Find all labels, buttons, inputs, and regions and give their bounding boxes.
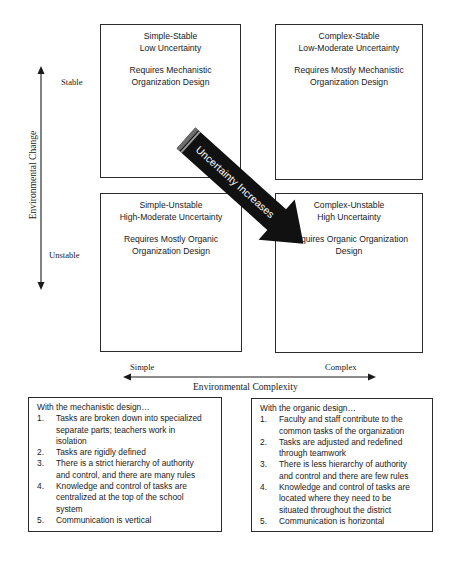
- list-item: 1. Faculty and staff contribute to the c…: [260, 414, 426, 437]
- list-number: 4.: [37, 481, 44, 492]
- list-text: Knowledge and control of tasks are: [279, 482, 410, 492]
- list-item: 5. Communication is vertical: [37, 515, 215, 526]
- list-number: 5.: [37, 515, 44, 526]
- mechanistic-design-lead: With the mechanistic design…: [37, 402, 215, 413]
- mechanistic-design-box: With the mechanistic design… 1. Tasks ar…: [28, 397, 222, 532]
- list-text: Faculty and staff contribute to the: [279, 414, 403, 424]
- list-item: 1. Tasks are broken down into specialize…: [37, 413, 215, 447]
- list-item: 3. There is less hierarchy of authority …: [260, 459, 426, 482]
- list-text: and control, and there are many rules: [56, 470, 195, 480]
- list-text: system: [56, 504, 83, 514]
- list-text: Tasks are rigidly defined: [56, 447, 146, 457]
- list-number: 1.: [37, 413, 44, 424]
- uncertainty-arrow-label: Uncertainty Increases: [194, 143, 277, 220]
- list-number: 4.: [260, 482, 267, 493]
- list-text: There is less hierarchy of authority: [279, 459, 407, 469]
- mechanistic-design-list: 1. Tasks are broken down into specialize…: [37, 413, 215, 526]
- list-text: common tasks of the organization: [279, 426, 404, 436]
- list-number: 2.: [37, 447, 44, 458]
- list-text: Tasks are broken down into specialized: [56, 413, 202, 423]
- list-text: Communication is horizontal: [279, 516, 384, 526]
- list-number: 1.: [260, 414, 267, 425]
- list-number: 3.: [260, 459, 267, 470]
- list-text: There is a strict hierarchy of authority: [56, 458, 194, 468]
- organic-design-lead: With the organic design…: [260, 403, 426, 414]
- uncertainty-arrow-icon: Uncertainty Increases: [168, 118, 322, 264]
- list-item: 4. Knowledge and control of tasks are lo…: [260, 482, 426, 516]
- list-text: Communication is vertical: [56, 515, 151, 525]
- organic-design-list: 1. Faculty and staff contribute to the c…: [260, 414, 426, 527]
- list-text: located where they need to be: [279, 493, 391, 503]
- list-text: Tasks are adjusted and redefined: [279, 437, 402, 447]
- list-text: situated throughout the district: [279, 505, 391, 515]
- list-text: and control and there are few rules: [279, 471, 408, 481]
- list-item: 4. Knowledge and control of tasks are ce…: [37, 481, 215, 515]
- list-text: through teamwork: [279, 448, 346, 458]
- list-number: 3.: [37, 458, 44, 469]
- list-item: 2. Tasks are adjusted and redefined thro…: [260, 437, 426, 460]
- list-text: isolation: [56, 436, 87, 446]
- list-item: 3. There is a strict hierarchy of author…: [37, 458, 215, 481]
- list-text: Knowledge and control of tasks are: [56, 481, 187, 491]
- list-text: centralized at the top of the school: [56, 492, 184, 502]
- list-number: 5.: [260, 516, 267, 527]
- list-text: separate parts; teachers work in: [56, 425, 175, 435]
- list-item: 5. Communication is horizontal: [260, 516, 426, 527]
- list-item: 2. Tasks are rigidly defined: [37, 447, 215, 458]
- organic-design-box: With the organic design… 1. Faculty and …: [251, 398, 433, 532]
- list-number: 2.: [260, 437, 267, 448]
